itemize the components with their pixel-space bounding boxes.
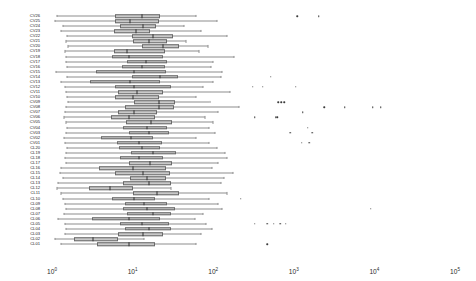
median-line xyxy=(110,187,111,191)
whisker-cap-low xyxy=(61,192,62,194)
whisker-cap-low xyxy=(66,152,67,154)
whisker-low xyxy=(66,56,112,57)
whisker-cap-low xyxy=(66,61,67,63)
whisker-cap-low xyxy=(61,81,62,83)
whisker-low xyxy=(67,36,132,37)
box-cv07 xyxy=(118,111,157,115)
box-cv17 xyxy=(127,60,167,64)
whisker-high xyxy=(165,51,199,52)
whisker-cap-high xyxy=(196,96,197,98)
whisker-cap-low xyxy=(62,197,63,199)
whisker-cap-low xyxy=(55,20,56,22)
whisker-cap-low xyxy=(65,223,66,225)
whisker-cap-low xyxy=(59,172,60,174)
whisker-low xyxy=(65,203,125,204)
whisker-low xyxy=(58,218,91,219)
whisker-low xyxy=(61,168,99,169)
whisker-cap-high xyxy=(221,76,222,78)
outlier-point xyxy=(240,198,242,200)
whisker-cap-low xyxy=(62,25,63,27)
whisker-high xyxy=(171,213,203,214)
whisker-cap-high xyxy=(196,243,197,245)
whisker-low xyxy=(64,137,102,138)
median-line xyxy=(131,136,132,140)
whisker-cap-high xyxy=(232,172,233,174)
median-line xyxy=(134,197,135,201)
median-line xyxy=(141,222,142,226)
median-line xyxy=(130,19,131,23)
box-cl14 xyxy=(130,176,166,180)
median-line xyxy=(146,126,147,130)
whisker-high xyxy=(167,203,218,204)
whisker-cap-low xyxy=(67,126,68,128)
outlier-point xyxy=(254,117,256,119)
whisker-low xyxy=(60,173,115,174)
whisker-cap-high xyxy=(222,71,223,73)
median-line xyxy=(153,151,154,155)
whisker-cap-high xyxy=(214,132,215,134)
whisker-cap-high xyxy=(200,30,201,32)
whisker-cap-high xyxy=(209,101,210,103)
whisker-low xyxy=(61,193,132,194)
median-line xyxy=(158,106,159,110)
whisker-cap-low xyxy=(67,35,68,37)
whisker-high xyxy=(166,168,212,169)
boxplot-figure: CV26CV25CV24CV23CV22CV21CV20CV19CV18CV17… xyxy=(0,0,476,281)
whisker-low xyxy=(65,234,118,235)
whisker-high xyxy=(160,147,216,148)
whisker-cap-high xyxy=(202,86,203,88)
outlier-point xyxy=(262,86,264,88)
whisker-cap-low xyxy=(63,137,64,139)
whisker-cap-low xyxy=(61,30,62,32)
whisker-high xyxy=(166,178,224,179)
median-line xyxy=(138,141,139,145)
whisker-high xyxy=(155,198,209,199)
whisker-cap-low xyxy=(65,86,66,88)
whisker-cap-high xyxy=(211,167,212,169)
whisker-high xyxy=(160,16,196,17)
median-line xyxy=(158,100,159,104)
median-line xyxy=(138,156,139,160)
whisker-high xyxy=(170,173,233,174)
whisker-low xyxy=(57,16,115,17)
outlier-point xyxy=(276,117,278,119)
whisker-high xyxy=(172,163,218,164)
whisker-low xyxy=(65,51,114,52)
whisker-high xyxy=(171,228,212,229)
median-line xyxy=(146,176,147,180)
whisker-low xyxy=(63,26,121,27)
median-line xyxy=(144,202,145,206)
box-cl13 xyxy=(123,182,172,186)
outlier-point xyxy=(380,107,382,109)
median-line xyxy=(132,95,133,99)
median-line xyxy=(141,14,142,18)
whisker-cap-low xyxy=(67,147,68,149)
whisker-high xyxy=(167,127,208,128)
whisker-high xyxy=(169,132,215,133)
whisker-cap-low xyxy=(58,218,59,220)
median-line xyxy=(143,232,144,236)
whisker-low xyxy=(61,81,90,82)
box-cv26 xyxy=(115,14,160,18)
whisker-low xyxy=(66,163,129,164)
whisker-cap-low xyxy=(65,50,66,52)
whisker-cap-low xyxy=(67,76,68,78)
box-cv11 xyxy=(118,90,164,94)
box-cv13 xyxy=(90,80,160,84)
median-line xyxy=(134,85,135,89)
whisker-cap-low xyxy=(65,142,66,144)
box-cv08 xyxy=(125,106,175,110)
outlier-point xyxy=(273,223,275,225)
box-cv19 xyxy=(114,50,165,54)
whisker-cap-low xyxy=(68,101,69,103)
whisker-cap-low xyxy=(66,40,67,42)
whisker-cap-high xyxy=(233,55,234,57)
whisker-low xyxy=(65,112,118,113)
median-line xyxy=(156,192,157,196)
whisker-high xyxy=(160,81,213,82)
whisker-low xyxy=(55,239,74,240)
whisker-low xyxy=(66,208,123,209)
whisker-low xyxy=(67,76,132,77)
outlier-point xyxy=(281,101,283,103)
box-cv16 xyxy=(122,65,165,69)
